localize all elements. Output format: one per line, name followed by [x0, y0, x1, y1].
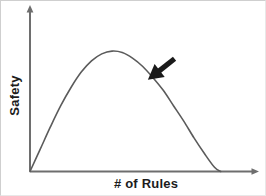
y-axis-label: Safety	[8, 61, 21, 131]
x-axis-arrowhead-icon	[252, 168, 260, 175]
plot-area	[1, 1, 266, 196]
safety-vs-rules-figure: Safety # of Rules	[0, 0, 266, 196]
y-axis	[27, 5, 34, 172]
arrow-shaft	[157, 59, 174, 73]
safety-curve	[30, 51, 221, 171]
x-axis	[30, 168, 259, 175]
descending-limb-arrow-icon	[148, 59, 175, 80]
x-axis-label: # of Rules	[1, 177, 265, 190]
y-axis-arrowhead-icon	[27, 5, 34, 13]
